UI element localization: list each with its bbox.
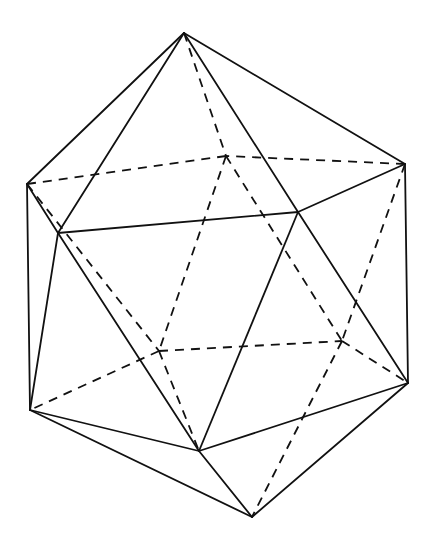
hidden-edge-ul-bc [27,156,226,184]
visible-edge-fb-bot [199,451,252,517]
hidden-edge-bl-br [159,341,342,351]
visible-edge-fr-fb [199,212,298,451]
visible-edge-fl-fr [58,212,298,233]
visible-edge-ll-bot [30,410,252,517]
hidden-edge-ur-br [342,164,405,341]
visible-edge-t-fr [184,33,298,212]
visible-edge-t-fl [58,33,184,233]
visible-edge-lr-bot [252,383,408,517]
hidden-edge-bl-fb [159,351,199,451]
visible-edge-ur-lr [405,164,408,383]
hidden-edge-t-bc [184,33,226,156]
icosahedron-wireframe [0,0,435,547]
visible-edge-ul-fl [27,184,58,233]
visible-edge-ll-fb [30,410,199,451]
hidden-edge-bc-bl [159,156,226,351]
visible-edge-fb-lr [199,383,408,451]
visible-edge-t-ul [27,33,184,184]
visible-edge-fl-ll [30,233,58,410]
icosahedron-diagram: Icosahedron (wireframe line drawing with… [0,0,435,547]
visible-edge-ul-ll [27,184,30,410]
visible-edge-fr-ur [298,164,405,212]
visible-edge-fl-fb [58,233,199,451]
hidden-edge-bc-br [226,156,342,341]
hidden-edge-ul-bl [27,184,159,351]
hidden-edge-ur-bc [226,156,405,164]
visible-edges [27,33,408,517]
visible-edge-t-ur [184,33,405,164]
hidden-edge-br-lr [342,341,408,383]
